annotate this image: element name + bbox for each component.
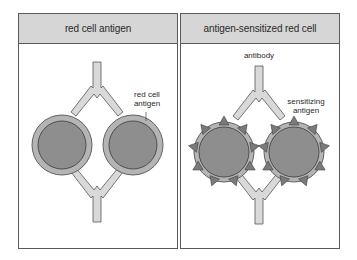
right-sensitized-cell-1 [188,116,261,188]
diagram-artwork [0,0,357,260]
left-antibody-top [71,62,123,116]
right-antibody-bottom [233,170,285,224]
right-antibody-top [233,66,285,120]
left-red-cell-2 [103,115,163,175]
label-red-cell-antigen: red cell antigen [125,90,169,108]
label-antibody: antibody [237,51,281,60]
right-sensitized-cell-2 [258,116,331,188]
label-sensitizing-antigen: sensitizing antigen [281,97,331,115]
left-red-cell-1 [32,115,92,175]
left-antibody-bottom [71,168,123,222]
